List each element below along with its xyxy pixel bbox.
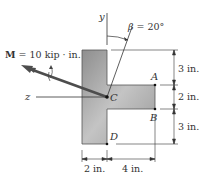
point-C-label: C bbox=[110, 92, 118, 103]
beta-label: β = 20° bbox=[127, 21, 164, 32]
point-A-label: A bbox=[150, 71, 158, 82]
z-axis-label: z bbox=[24, 91, 31, 102]
dim-top-label: 3 in. bbox=[178, 63, 199, 74]
vertical-dimension bbox=[173, 50, 176, 144]
point-B-label: B bbox=[149, 112, 157, 123]
point-A bbox=[154, 84, 157, 87]
point-D bbox=[106, 143, 109, 146]
point-B bbox=[154, 108, 157, 111]
dim-middle-label: 2 in. bbox=[178, 91, 199, 102]
point-D-label: D bbox=[109, 131, 118, 142]
y-axis-label: y bbox=[98, 11, 105, 22]
dim-flange-width-label: 2 in. bbox=[84, 163, 105, 174]
horizontal-dimension bbox=[82, 158, 155, 161]
diagram-canvas: y z β = 20° M = 10 kip · in. C A B D bbox=[0, 0, 205, 178]
dim-web-length-label: 4 in. bbox=[122, 163, 143, 174]
point-C bbox=[105, 95, 109, 99]
dim-bottom-label: 3 in. bbox=[178, 121, 199, 132]
moment-label: M = 10 kip · in. bbox=[5, 49, 81, 60]
